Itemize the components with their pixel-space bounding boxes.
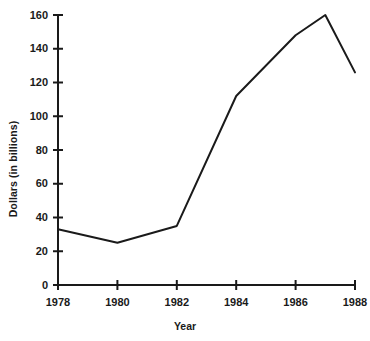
plot-area (0, 0, 370, 341)
line-chart: Dollars (in billions) Year 0204060801001… (0, 0, 370, 341)
series-line (58, 15, 355, 243)
data-series (58, 15, 355, 243)
axes (53, 15, 355, 290)
